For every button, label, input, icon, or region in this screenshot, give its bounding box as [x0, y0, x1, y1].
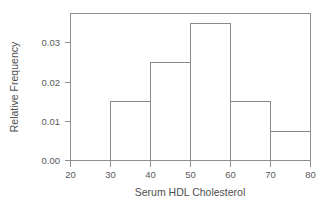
x-tick-label-30: 30 — [105, 169, 116, 180]
histogram-plot: 0.00 0.01 0.02 0.03 20 30 40 50 60 70 80… — [0, 0, 331, 204]
bar-30-40 — [150, 63, 190, 161]
x-tick-label-60: 60 — [225, 169, 236, 180]
y-tick-label-0.00: 0.00 — [42, 155, 61, 166]
x-axis-title: Serum HDL Cholesterol — [135, 186, 246, 198]
bar-20-30 — [110, 102, 150, 161]
bar-40-50 — [190, 23, 230, 160]
bar-60-70 — [270, 131, 310, 160]
histogram-figure: 0.00 0.01 0.02 0.03 20 30 40 50 60 70 80… — [0, 0, 331, 204]
y-tick-label-0.01: 0.01 — [42, 116, 61, 127]
bar-50-60 — [230, 102, 270, 161]
x-tick-label-20: 20 — [65, 169, 76, 180]
y-tick-label-0.02: 0.02 — [42, 77, 61, 88]
y-tick-label-0.03: 0.03 — [42, 37, 61, 48]
y-axis-ticks — [65, 43, 71, 161]
x-axis-ticks — [71, 161, 311, 167]
x-tick-label-70: 70 — [265, 169, 276, 180]
y-axis-title: Relative Frequency — [8, 41, 20, 132]
x-tick-label-80: 80 — [305, 169, 316, 180]
x-tick-label-50: 50 — [185, 169, 196, 180]
x-tick-label-40: 40 — [145, 169, 156, 180]
